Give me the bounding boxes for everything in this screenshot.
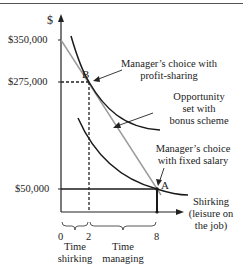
label-time-shirking: Time shirking xyxy=(52,241,98,265)
brace-managing xyxy=(90,222,156,230)
label-time-managing: Time managing xyxy=(100,241,146,265)
y-tick-50000: $50,000 xyxy=(15,183,49,195)
y-axis-label: $ xyxy=(47,14,53,26)
point-a-label: A xyxy=(161,179,169,191)
point-a-dot xyxy=(155,187,159,191)
annotation-profit-sharing: Manager’s choice with profit-sharing xyxy=(109,58,229,82)
arrow-to-b-icon xyxy=(93,76,100,82)
annotation-fixed-salary: Manager’s choice with fixed salary xyxy=(146,143,240,167)
x-tick-8: 8 xyxy=(154,231,159,243)
y-tick-350000: $350,000 xyxy=(8,34,47,46)
y-axis-arrow-icon xyxy=(58,14,64,22)
y-tick-275000: $275,000 xyxy=(8,76,47,88)
x-axis-label: Shirking (leisure on the job) xyxy=(180,196,242,232)
point-b-label: B xyxy=(82,68,89,80)
annotation-bonus-scheme: Opportunity set with bonus scheme xyxy=(157,91,241,127)
indifference-curve-high xyxy=(71,36,160,130)
brace-shirking xyxy=(62,222,88,230)
